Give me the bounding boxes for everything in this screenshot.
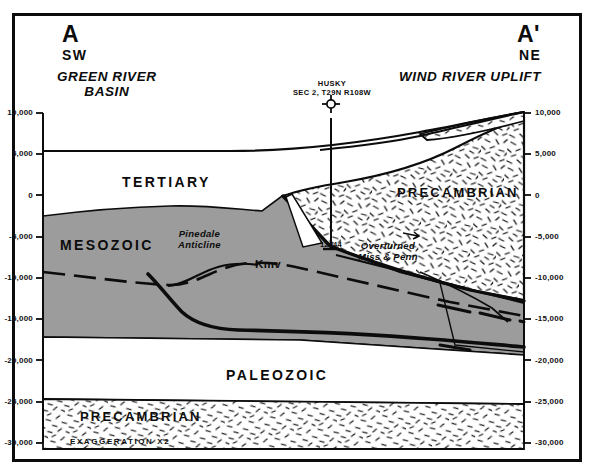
marker-label-kmv: Kmv (255, 258, 281, 271)
unit-label-precambrian-uplift: PRECAMBRIAN (397, 186, 519, 201)
region-label-green-river-basin: GREEN RIVER BASIN (57, 69, 157, 99)
axis-left (36, 113, 43, 443)
axis-tick-label-left: -25,000 (0, 397, 33, 406)
unit-label-mesozoic: MESOZOIC (60, 238, 154, 254)
unit-label-tertiary: TERTIARY (122, 175, 211, 191)
axis-tick-label-right: -10,000 (535, 273, 591, 282)
exaggeration-note: EXAGGERATION X2 (70, 438, 170, 447)
axis-tick-label-left: -30,000 (0, 438, 33, 447)
well-spud-icon (322, 95, 340, 113)
axis-tick-label-right: -20,000 (535, 356, 591, 365)
endpoint-label-left: A (62, 22, 79, 48)
axis-tick-label-right: 0 (535, 191, 591, 200)
axis-tick-label-right: 5,000 (535, 149, 591, 158)
axis-tick-label-right: -30,000 (535, 438, 591, 447)
region-label-wind-river-uplift: WIND RIVER UPLIFT (399, 69, 541, 84)
cross-section-figure: A SW GREEN RIVER BASIN A' NE WIND RIVER … (0, 0, 596, 476)
axis-tick-label-left: 5,000 (0, 149, 33, 158)
structure-label-pinedale-anticline: Pinedale Anticline (178, 229, 221, 251)
axis-tick-label-left: -20,000 (0, 356, 33, 365)
endpoint-label-right: A' (517, 22, 540, 48)
axis-tick-label-right: 10,000 (535, 108, 591, 117)
well-location-label: SEC 2, T29N R108W (288, 89, 376, 97)
axis-tick-label-left: 10,000 (0, 108, 33, 117)
axis-tick-label-right: -5,000 (535, 232, 591, 241)
axis-tick-label-left: -15,000 (0, 314, 33, 323)
section-body (43, 95, 524, 449)
axis-tick-label-right: -15,000 (535, 314, 591, 323)
axis-tick-label-left: -5,000 (0, 232, 33, 241)
unit-label-precambrian-basement: PRECAMBRIAN (80, 410, 202, 425)
axis-tick-label-left: -10,000 (0, 273, 33, 282)
unit-label-paleozoic: PALEOZOIC (226, 368, 328, 384)
axis-tick-label-right: -25,000 (535, 397, 591, 406)
structure-label-overturned-miss-penn: Overturned Miss & Penn (358, 241, 418, 263)
direction-label-sw: SW (62, 48, 87, 64)
direction-label-ne: NE (519, 48, 541, 64)
well-total-depth-label: 12944 (320, 241, 342, 249)
axis-tick-label-left: 0 (0, 191, 33, 200)
